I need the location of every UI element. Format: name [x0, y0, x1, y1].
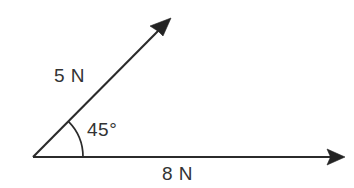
horizontal-force-label: 8 N — [162, 164, 193, 183]
vector-diagram-canvas — [0, 0, 354, 188]
angle-label: 45° — [87, 120, 117, 139]
angle-arc — [69, 122, 83, 157]
diagonal-force-label: 5 N — [54, 66, 85, 85]
diagonal-force-arrowhead-icon — [150, 18, 171, 36]
force-vector-diagram: 5 N 45° 8 N — [0, 0, 354, 188]
